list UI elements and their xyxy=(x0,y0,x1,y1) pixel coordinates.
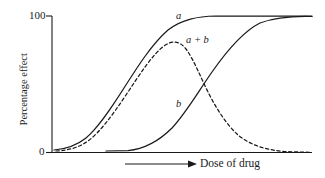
curve-a xyxy=(54,16,312,150)
curve-label-a: a xyxy=(176,11,181,22)
y-axis-tick-label-0: 0 xyxy=(39,146,45,157)
right-arrow-icon xyxy=(188,161,197,168)
curve-a-plus-b xyxy=(56,42,311,152)
chart-figure: 100 0 Percentage effect Dose of drug a a… xyxy=(0,0,325,178)
x-axis-title: Dose of drug xyxy=(200,158,260,170)
y-axis-tick-label-100: 100 xyxy=(29,10,46,21)
curve-label-b: b xyxy=(176,99,181,110)
y-axis-title: Percentage effect xyxy=(19,34,30,144)
chart-plot-area xyxy=(0,0,325,178)
curve-b xyxy=(106,16,312,151)
curve-label-a-plus-b: a + b xyxy=(186,35,209,46)
